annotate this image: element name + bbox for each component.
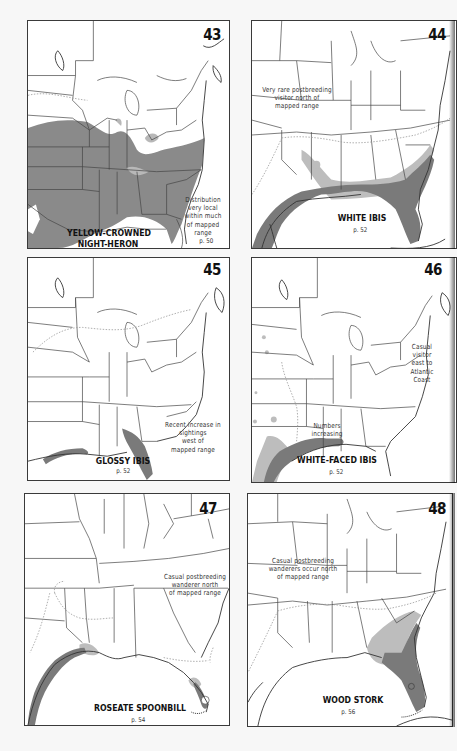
species-name-line1: WHITE IBIS: [321, 212, 403, 223]
species-name-line2: NIGHT-HERON: [67, 238, 149, 249]
species-name: GLOSSY IBIS: [90, 455, 156, 466]
species-name-line1: ROSEATE SPOONBILL: [91, 702, 189, 713]
map-number: 43: [203, 26, 221, 44]
range-note: Distribution very local within much of m…: [174, 196, 230, 237]
page-reference: p. 54: [131, 716, 145, 724]
page-reference: p. 56: [341, 708, 355, 716]
species-name: ROSEATE SPOONBILL: [91, 702, 189, 713]
species-name-line1: YELLOW-CROWNED: [67, 227, 149, 238]
range-map-48: 48 Casual postbreeding wanderers occur n…: [247, 493, 453, 727]
range-note: Casual visitor east to Atlantic Coast: [402, 343, 443, 384]
species-name-line1: WOOD STORK: [312, 694, 394, 705]
range-map-43: 43 Distribution very local within much o…: [27, 20, 230, 249]
range-note: Casual postbreeding wanderers occur nort…: [258, 557, 348, 582]
species-name-line1: WHITE-FACED IBIS: [288, 454, 386, 465]
page-reference: p. 52: [116, 467, 130, 475]
range-note: Recent increase in sightings west of map…: [156, 421, 230, 454]
southeast-us-map: [248, 494, 452, 726]
species-name: WHITE-FACED IBIS: [288, 454, 386, 465]
range-map-46: 46 Casual visitor east to Atlantic Coast…: [251, 257, 457, 483]
gulf-coast-map: [25, 494, 229, 725]
species-name-line1: GLOSSY IBIS: [90, 455, 156, 466]
range-map-44: 44 Very rare postbreeding visitor north …: [251, 20, 457, 249]
range-map-45: 45 Recent increase in sightings west of …: [27, 257, 230, 481]
page-reference: p. 52: [329, 468, 343, 476]
range-map-47: 47 Casual postbreeding wanderer north of…: [24, 493, 230, 726]
range-note: Very rare postbreeding visitor north of …: [252, 86, 342, 111]
page-reference: p. 52: [353, 226, 367, 234]
page-reference: p. 50: [199, 237, 213, 245]
species-name: YELLOW-CROWNED NIGHT-HERON: [67, 227, 149, 249]
species-name: WHITE IBIS: [321, 212, 403, 223]
page-edge-shadow: [449, 20, 455, 249]
map-number: 47: [199, 500, 217, 518]
range-note-secondary: Numbers increasing: [298, 422, 355, 438]
page-edge-shadow: [449, 493, 455, 727]
map-number: 45: [203, 261, 221, 279]
species-name: WOOD STORK: [312, 694, 394, 705]
map-number: 48: [428, 500, 446, 518]
map-number: 46: [424, 261, 442, 279]
range-note: Casual postbreeding wanderer north of ma…: [158, 573, 230, 598]
page-edge-shadow: [449, 257, 455, 483]
map-number: 44: [428, 26, 446, 44]
